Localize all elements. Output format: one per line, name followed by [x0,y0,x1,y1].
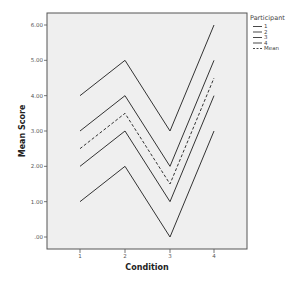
x-tick-label: 2 [123,253,127,259]
y-tick-label: 4.00 [31,93,44,99]
y-axis-title: Mean Score [18,104,27,157]
y-tick-label: .00 [34,234,43,240]
x-tick-label: 1 [78,253,82,259]
y-tick-label: 5.00 [31,57,44,63]
legend-label: Mean [264,45,279,51]
line-chart: .001.002.003.004.005.006.00 1234 Mean Sc… [0,0,296,285]
y-tick-label: 6.00 [31,22,44,28]
y-tick-label: 3.00 [31,128,44,134]
y-tick-label: 1.00 [31,199,44,205]
y-tick-label: 2.00 [31,163,44,169]
x-tick-label: 4 [212,253,216,259]
x-tick-label: 3 [168,253,172,259]
x-axis: 1234 [78,249,216,259]
legend-title: Participant [250,14,285,22]
legend: Participant 1234Mean [250,14,285,51]
x-axis-title: Condition [125,263,169,272]
y-axis: .001.002.003.004.005.006.00 [31,22,47,240]
